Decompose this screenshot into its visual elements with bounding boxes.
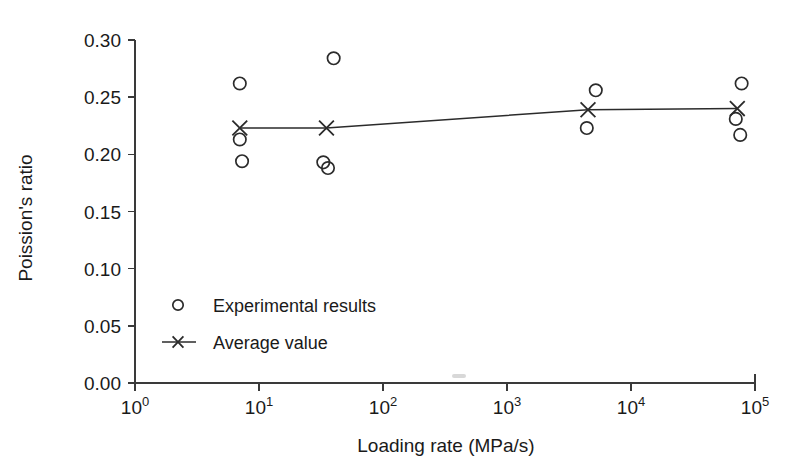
y-tick-label: 0.25 xyxy=(84,87,121,108)
x-axis-tick-labels: 100101102103104105 xyxy=(121,394,769,418)
y-axis-tick-labels: 0.000.050.100.150.200.250.30 xyxy=(84,30,121,394)
x-axis-title: Loading rate (MPa/s) xyxy=(357,435,534,456)
y-axis-ticks xyxy=(128,40,135,383)
data-point-circle xyxy=(590,84,602,96)
x-tick-label: 102 xyxy=(369,394,397,418)
y-tick-label: 0.20 xyxy=(84,144,121,165)
data-point-circle xyxy=(734,129,746,141)
y-tick-label: 0.30 xyxy=(84,30,121,51)
y-tick-label: 0.00 xyxy=(84,373,121,394)
data-point-circle xyxy=(236,155,248,167)
average-data-points xyxy=(232,101,744,135)
data-point-circle xyxy=(327,52,339,64)
scan-artifact xyxy=(452,374,466,378)
x-tick-label: 103 xyxy=(493,394,521,418)
chart-figure: 0.000.050.100.150.200.250.30 10010110210… xyxy=(0,0,796,470)
y-axis-title: Poission's ratio xyxy=(15,154,36,281)
y-tick-label: 0.10 xyxy=(84,259,121,280)
x-tick-label: 100 xyxy=(121,394,149,418)
legend-circle-icon xyxy=(173,300,183,310)
data-point-circle xyxy=(581,122,593,134)
x-axis-ticks xyxy=(135,383,755,391)
legend-label-average: Average value xyxy=(213,333,328,353)
legend-label-experimental: Experimental results xyxy=(213,296,376,316)
y-tick-label: 0.15 xyxy=(84,202,121,223)
legend-item-average: Average value xyxy=(162,333,328,353)
data-point-circle xyxy=(735,77,747,89)
average-trend-polyline xyxy=(240,109,738,128)
data-point-circle xyxy=(234,77,246,89)
x-tick-label: 101 xyxy=(245,394,273,418)
scatter-plot-svg: 0.000.050.100.150.200.250.30 10010110210… xyxy=(0,0,796,470)
x-tick-label: 105 xyxy=(741,394,769,418)
average-trend-line xyxy=(240,109,738,128)
legend-item-experimental: Experimental results xyxy=(173,296,376,316)
data-point-circle xyxy=(234,133,246,145)
axis-frame xyxy=(135,40,755,383)
chart-legend: Experimental results Average value xyxy=(162,296,376,353)
experimental-data-points xyxy=(234,52,748,174)
y-tick-label: 0.05 xyxy=(84,316,121,337)
x-tick-label: 104 xyxy=(617,394,645,418)
